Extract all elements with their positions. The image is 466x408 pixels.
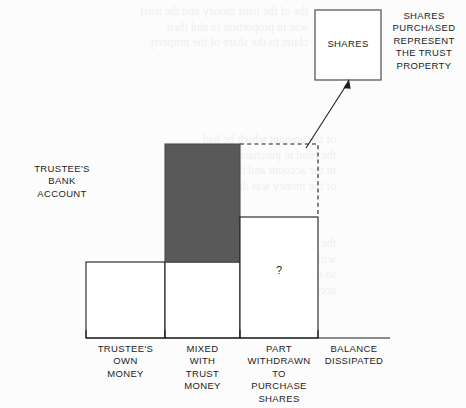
axis-label-mixed-with-trust: MIXED WITH TRUST MONEY — [165, 343, 240, 393]
question-mark-annotation: ? — [240, 264, 318, 276]
bar-part-withdrawn-remaining — [240, 217, 318, 338]
shares-caption: SHARES PURCHASED REPRESENT THE TRUST PRO… — [386, 10, 462, 72]
shares-box-label: SHARES — [315, 38, 381, 50]
bar-mixed-own-portion — [165, 262, 240, 338]
diagram-page: the of the trust money and the trust was… — [0, 0, 466, 408]
axis-label-balance-dissipated: BALANCE DISSIPATED — [318, 343, 390, 368]
axis-label-part-withdrawn: PART WITHDRAWN TO PURCHASE SHARES — [240, 343, 318, 405]
shares-arrow-shaft — [306, 84, 347, 148]
bar-trustees-own-money — [86, 262, 165, 338]
axis-label-trustees-own-money: TRUSTEE'S OWN MONEY — [86, 343, 165, 380]
bank-account-label: TRUSTEE'S BANK ACCOUNT — [6, 163, 118, 200]
withdrawn-portion-dashed-outline — [240, 144, 318, 217]
bar-mixed-trust-portion — [165, 144, 240, 262]
